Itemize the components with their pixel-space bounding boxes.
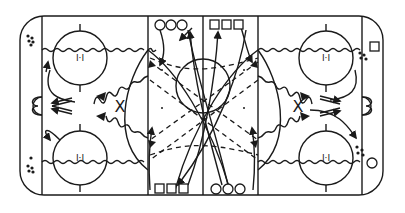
wavy-path-top-full [42, 49, 144, 52]
wavy-path-bottom-full [42, 161, 144, 164]
svg-text:I·I: I·I [76, 153, 84, 163]
hockey-rink-diagram: I·I I·I I·I I·I X X [0, 0, 405, 213]
player-square-right [370, 42, 379, 51]
player-circle-bottom [211, 184, 221, 194]
defender-mark-left: X [115, 97, 126, 116]
player-square-bottom [155, 184, 164, 193]
svg-text:I·I: I·I [322, 53, 330, 63]
faceoff-label: I·I [76, 53, 84, 63]
defender-mark-right: X [293, 97, 304, 116]
player-circle-right [367, 158, 377, 168]
player-square-top [210, 20, 219, 29]
skate-path-top-left [160, 30, 164, 65]
svg-text:I·I: I·I [322, 153, 330, 163]
player-circle-top [155, 20, 165, 30]
